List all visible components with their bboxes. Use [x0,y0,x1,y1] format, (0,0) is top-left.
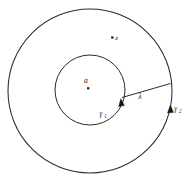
outer-contour-label: γ [174,105,177,113]
figure-container: a z λ γ 1 γ 2 [0,0,186,180]
outer-contour-label-subscript: 2 [179,108,182,114]
inner-contour-label-subscript: 1 [104,113,107,119]
outer-circle-gamma2 [8,9,172,173]
annulus-diagram: a z λ γ 1 γ 2 [0,0,186,180]
lambda-radius-line [122,84,171,98]
inner-contour-label: γ [100,110,103,118]
center-point-dot [87,87,89,89]
z-point-dot [111,36,113,38]
inner-circle-gamma1 [55,55,125,125]
lambda-label: λ [138,92,143,101]
outer-circle-arrowhead-icon [167,105,173,113]
center-point-label: a [84,76,88,85]
z-point-label: z [114,34,118,42]
